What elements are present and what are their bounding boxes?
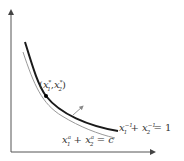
gradient-arrow [73,107,82,115]
tangency-point [44,94,48,98]
thin-tangent-curve [23,52,115,138]
tangency-point-label: (x*1,x*2) [39,79,66,92]
tangent-curve-label: xa1 + xa2 = c [62,134,114,147]
indifference-curve-label: x−11 + x−12 = 1 [119,122,171,135]
